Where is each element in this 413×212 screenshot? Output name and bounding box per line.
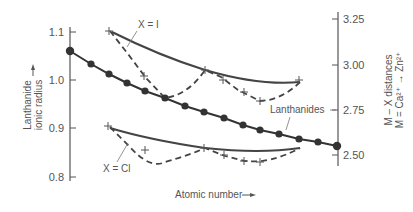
right-tick-2.50: 2.50 — [343, 149, 364, 161]
right-tick-3.25: 3.25 — [343, 13, 364, 25]
left-axis-title-line2: ionic radius — [33, 80, 44, 131]
left-axis-title: Lanthanide ionic radius — [22, 80, 44, 131]
annotation-lanthanides-leader — [286, 117, 290, 130]
left-tick-1.0: 1.0 — [49, 74, 64, 86]
annotation-x-cl: X = Cl — [103, 163, 131, 174]
right-axis-title-line2: M = Ca²⁺ → Zn²⁺ — [394, 52, 405, 128]
chart-canvas: 1.1 1.0 0.9 0.8 Lanthanide ionic radius … — [0, 0, 413, 212]
right-tick-3.00: 3.00 — [343, 59, 364, 71]
series-xi-smooth — [112, 32, 300, 83]
x-axis-arrow-icon — [242, 193, 256, 197]
series-lanthanides — [70, 51, 337, 146]
left-tick-1.1: 1.1 — [49, 26, 64, 38]
lanthanide-dot-markers — [66, 47, 341, 150]
annotation-lanthanides: Lanthanides — [270, 104, 325, 115]
left-tick-0.9: 0.9 — [49, 122, 64, 134]
left-axis-title-line1: Lanthanide — [22, 80, 33, 130]
x-axis-title: Atomic number — [175, 189, 243, 200]
annotation-x-i: X = I — [138, 19, 159, 30]
annotation-x-cl-leader — [117, 143, 128, 162]
right-axis-title-line1: M – X distances — [383, 54, 394, 125]
right-tick-2.75: 2.75 — [343, 104, 364, 116]
xi-cross-markers — [105, 27, 303, 105]
right-axis-title: M – X distances M = Ca²⁺ → Zn²⁺ — [383, 52, 405, 128]
left-tick-0.8: 0.8 — [49, 171, 64, 183]
left-axis-arrow-icon — [31, 64, 35, 76]
